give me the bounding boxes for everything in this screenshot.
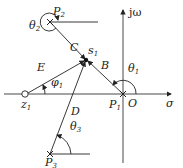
theta3-arc — [57, 135, 71, 154]
zero-z1-marker — [22, 91, 28, 97]
p2-label: P2 — [52, 5, 65, 19]
s1-point — [84, 58, 88, 62]
phi1-arc — [43, 85, 45, 94]
theta3-label: θ3 — [70, 120, 82, 134]
phi1-label: φ1 — [51, 76, 63, 90]
sigma-axis-label: σ — [166, 97, 174, 110]
vector-c — [50, 22, 85, 59]
jw-axis-label: jω — [127, 6, 141, 19]
s-plane-diagram: σ jω O P1 P2 P3 z1 s1 C B E D θ1 θ2 θ3 φ… — [0, 0, 183, 168]
p3-label: P3 — [44, 156, 57, 168]
vector-b-label: B — [100, 59, 109, 72]
z1-label: z1 — [20, 98, 31, 112]
theta1-label: θ1 — [128, 62, 139, 76]
s1-label: s1 — [88, 44, 98, 58]
vector-c-label: C — [70, 41, 79, 54]
theta2-label: θ2 — [29, 19, 41, 33]
vector-e-label: E — [36, 61, 45, 74]
p1-label: P1 — [108, 98, 121, 112]
vector-d-label: D — [70, 105, 80, 118]
origin-label: O — [128, 97, 137, 110]
